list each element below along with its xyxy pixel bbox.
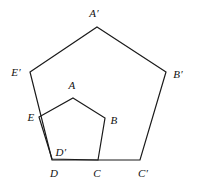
vertex-label-c: C bbox=[93, 168, 101, 179]
outer-pentagon bbox=[30, 27, 166, 160]
vertex-label-a: A bbox=[69, 80, 76, 91]
vertex-label-d: D bbox=[50, 168, 58, 179]
pentagon-diagram-svg bbox=[0, 0, 197, 187]
vertex-label-d-prime: D′ bbox=[56, 147, 67, 158]
vertex-label-b-prime: B′ bbox=[173, 69, 183, 80]
vertex-label-c-prime: C′ bbox=[138, 168, 148, 179]
vertex-label-b: B bbox=[111, 115, 118, 126]
geometry-figure: A′ B′ C′ D E′ A B C D′ E bbox=[0, 0, 197, 187]
inner-pentagon bbox=[39, 98, 105, 160]
vertex-label-a-prime: A′ bbox=[89, 8, 99, 19]
vertex-label-e: E bbox=[28, 112, 35, 123]
vertex-label-e-prime: E′ bbox=[11, 67, 21, 78]
